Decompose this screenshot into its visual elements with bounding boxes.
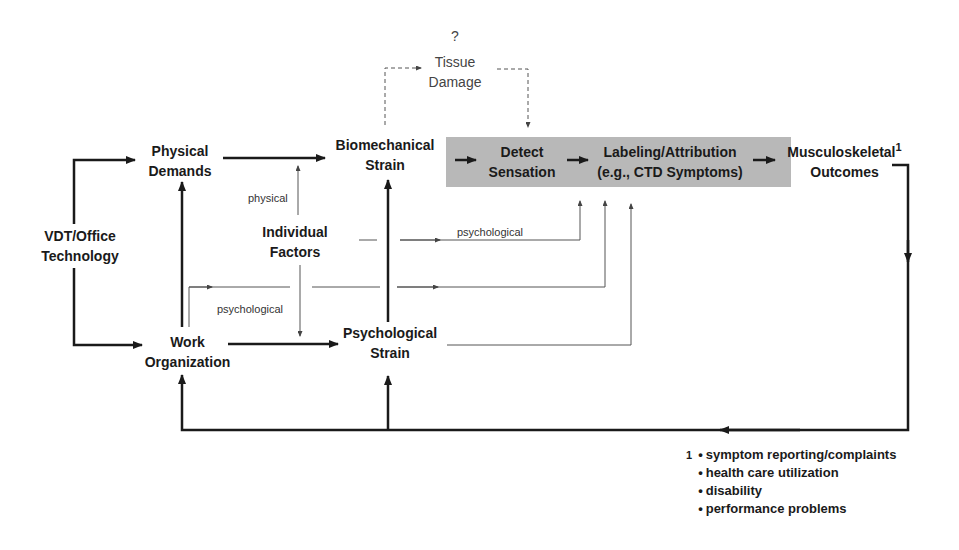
node-individual-factors: Individual Factors [240, 222, 350, 262]
edge-label-psychological-lower: psychological [217, 303, 283, 315]
node-tissue-damage: ? Tissue Damage [415, 26, 495, 92]
node-detect-sensation: Detect Sensation [472, 142, 572, 182]
node-physical-demands: Physical Demands [130, 141, 230, 181]
node-labeling-attribution: Labeling/Attribution (e.g., CTD Symptoms… [585, 142, 755, 182]
node-musculoskeletal-outcomes: Musculoskeletal1 Outcomes [782, 137, 907, 182]
node-vdt-office-technology: VDT/Office Technology [20, 226, 140, 266]
footnote-item: disability [698, 482, 896, 500]
footnote-list: 1 symptom reporting/complaints health ca… [686, 446, 896, 518]
node-psychological-strain: Psychological Strain [330, 323, 450, 363]
node-biomechanical-strain: Biomechanical Strain [320, 135, 450, 175]
footnote-item: performance problems [698, 500, 896, 518]
footnote-item: health care utilization [698, 464, 896, 482]
edge-label-physical: physical [248, 192, 288, 204]
footnote-mark: 1 [896, 141, 902, 153]
edge-label-psychological-upper: psychological [457, 226, 523, 238]
footnote-number: 1 [686, 446, 692, 518]
node-work-organization: Work Organization [130, 332, 245, 372]
footnote-item: symptom reporting/complaints [698, 446, 896, 464]
